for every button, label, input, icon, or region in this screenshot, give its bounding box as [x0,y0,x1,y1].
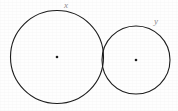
small-circle-center-dot [135,59,138,62]
small-circle-label: y [154,17,158,26]
large-circle-center-dot [56,56,59,59]
geometry-figure: x y [0,0,178,111]
large-circle-label: x [64,1,68,10]
figure-background [0,0,178,111]
figure-canvas [0,0,178,111]
